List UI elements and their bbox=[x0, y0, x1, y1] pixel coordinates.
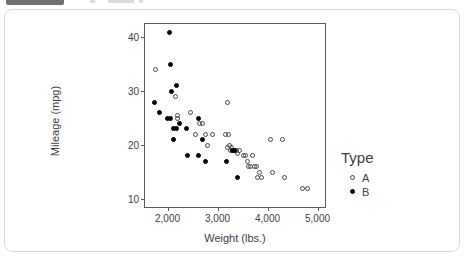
scatter-plot: Mileage (mpg) 102030402,0003,0004,0005,0… bbox=[5, 10, 461, 253]
y-axis-title: Mileage (mpg) bbox=[49, 61, 61, 181]
data-point-b bbox=[157, 110, 162, 115]
data-point-b bbox=[196, 153, 201, 158]
data-point-b bbox=[203, 159, 208, 164]
data-point-a bbox=[203, 132, 208, 137]
y-axis-tick bbox=[141, 91, 145, 92]
x-axis-tick-label: 4,000 bbox=[255, 213, 280, 224]
chart-card: Mileage (mpg) 102030402,0003,0004,0005,0… bbox=[4, 9, 460, 252]
data-point-a bbox=[254, 164, 259, 169]
data-point-b bbox=[224, 159, 229, 164]
data-point-a bbox=[282, 175, 287, 180]
x-axis-title: Weight (lbs.) bbox=[144, 232, 326, 244]
data-point-a bbox=[250, 153, 255, 158]
screenshot-root: Mileage (mpg) 102030402,0003,0004,0005,0… bbox=[0, 0, 470, 267]
data-point-b bbox=[169, 89, 174, 94]
data-point-a bbox=[205, 143, 210, 148]
plot-panel: 102030402,0003,0004,0005,000 bbox=[144, 23, 326, 208]
toolbar-fragment-2 bbox=[108, 0, 134, 3]
data-point-a bbox=[237, 148, 242, 153]
data-point-a bbox=[243, 153, 248, 158]
data-point-b bbox=[152, 100, 157, 105]
legend-item-a[interactable]: A bbox=[347, 171, 374, 185]
legend-item-b[interactable]: B bbox=[347, 185, 374, 199]
data-point-a bbox=[175, 113, 180, 118]
data-point-b bbox=[196, 116, 201, 121]
data-point-a bbox=[188, 110, 193, 115]
legend-label-a: A bbox=[362, 172, 369, 184]
data-point-a bbox=[305, 186, 310, 191]
data-point-a bbox=[173, 94, 178, 99]
toolbar-button-fragment[interactable] bbox=[6, 0, 64, 5]
legend-marker-a-icon bbox=[347, 175, 357, 180]
data-point-a bbox=[280, 137, 285, 142]
data-point-b bbox=[167, 30, 172, 35]
data-point-b bbox=[232, 148, 237, 153]
data-point-a bbox=[259, 175, 264, 180]
legend: Type A B bbox=[341, 150, 374, 199]
legend-label-b: B bbox=[362, 186, 369, 198]
data-point-b bbox=[168, 62, 173, 67]
data-point-a bbox=[257, 170, 262, 175]
data-point-a bbox=[270, 170, 275, 175]
data-point-b bbox=[185, 153, 190, 158]
y-axis-tick bbox=[141, 145, 145, 146]
legend-marker-b-icon bbox=[347, 189, 357, 194]
cropped-toolbar-strip bbox=[0, 0, 470, 7]
data-point-b bbox=[184, 126, 189, 131]
data-point-a bbox=[268, 137, 273, 142]
data-point-a bbox=[245, 159, 250, 164]
data-point-a bbox=[226, 132, 231, 137]
data-point-b bbox=[174, 83, 179, 88]
data-point-b bbox=[171, 137, 176, 142]
y-axis-tick bbox=[141, 199, 145, 200]
x-axis-tick bbox=[318, 207, 319, 211]
data-point-b bbox=[168, 116, 173, 121]
y-axis-tick-label: 30 bbox=[128, 86, 139, 97]
y-axis-tick-label: 10 bbox=[128, 193, 139, 204]
legend-title: Type bbox=[341, 150, 374, 167]
data-point-b bbox=[200, 137, 205, 142]
data-point-a bbox=[225, 100, 230, 105]
x-axis-tick-label: 5,000 bbox=[305, 213, 330, 224]
data-point-a bbox=[210, 132, 215, 137]
x-axis-tick-label: 3,000 bbox=[205, 213, 230, 224]
x-axis-tick bbox=[168, 207, 169, 211]
y-axis-tick-label: 20 bbox=[128, 140, 139, 151]
toolbar-fragment-3 bbox=[139, 0, 143, 3]
data-point-b bbox=[177, 121, 182, 126]
data-point-b bbox=[235, 175, 240, 180]
x-axis-tick bbox=[218, 207, 219, 211]
data-point-a bbox=[193, 132, 198, 137]
data-point-b bbox=[174, 126, 179, 131]
data-point-a bbox=[200, 121, 205, 126]
data-point-a bbox=[153, 67, 158, 72]
x-axis-tick-label: 2,000 bbox=[155, 213, 180, 224]
y-axis-tick-label: 40 bbox=[128, 32, 139, 43]
y-axis-tick bbox=[141, 37, 145, 38]
x-axis-tick bbox=[268, 207, 269, 211]
toolbar-fragment-1 bbox=[90, 0, 95, 3]
